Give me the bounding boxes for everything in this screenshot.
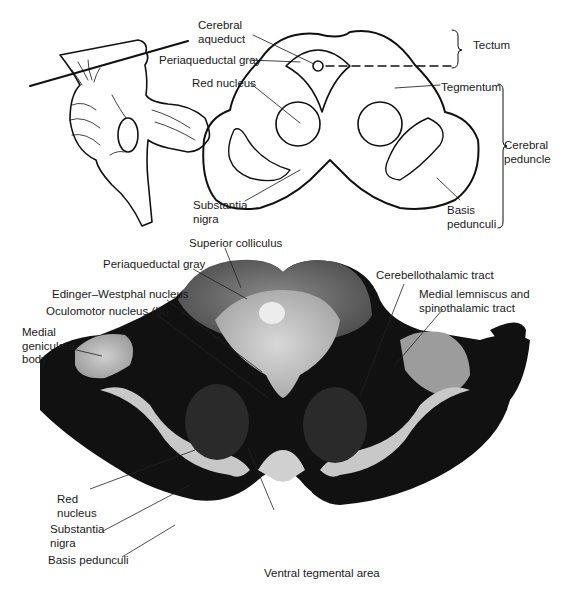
label-medial-lemniscus-spinothalamic: Medial lemniscus and spinothalamic tract bbox=[419, 288, 530, 315]
label-cerebellothalamic-tract: Cerebellothalamic tract bbox=[376, 269, 494, 283]
midbrain-figure: Cerebral aqueduct Periaqueductal gray Re… bbox=[0, 0, 566, 592]
label-substantia-nigra-section: Substantia nigra bbox=[50, 523, 104, 550]
label-ventral-tegmental-area: Ventral tegmental area bbox=[264, 567, 380, 581]
label-periaqueductal-gray-section: Periaqueductal gray bbox=[103, 258, 205, 272]
label-red-nucleus-section: Red nucleus bbox=[57, 493, 97, 520]
label-medial-geniculate-body: Medial geniculate body bbox=[22, 326, 74, 367]
label-superior-colliculus: Superior colliculus bbox=[189, 237, 282, 251]
label-basis-pedunculi-section: Basis pedunculi bbox=[48, 554, 129, 568]
label-oculomotor-nucleus: Oculomotor nucleus (III) bbox=[46, 305, 169, 319]
label-edinger-westphal-nucleus: Edinger–Westphal nucleus bbox=[52, 288, 189, 302]
